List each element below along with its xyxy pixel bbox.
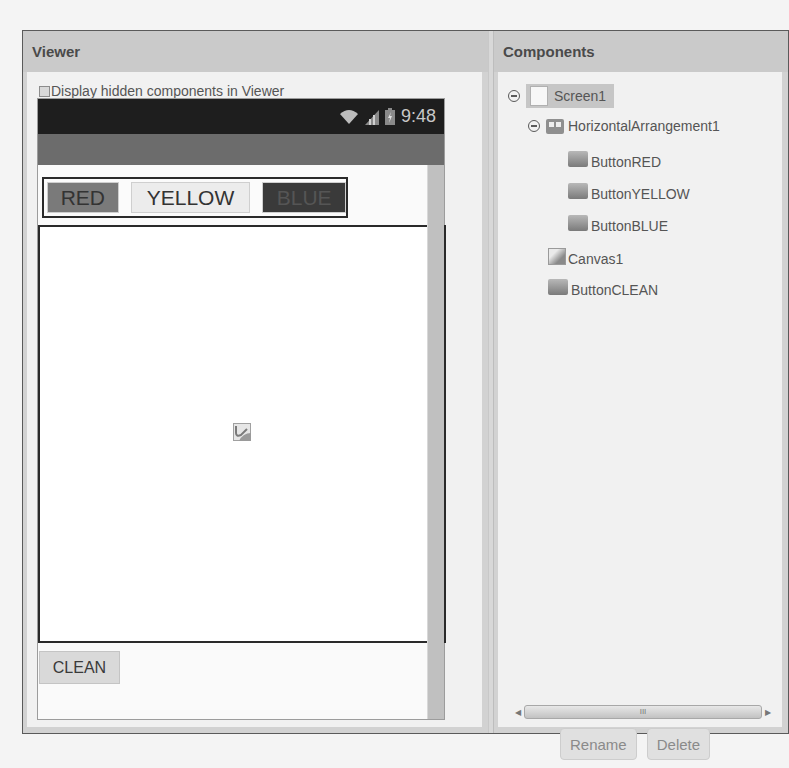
scroll-left-icon[interactable]: ◀	[512, 708, 524, 717]
button-clean[interactable]: CLEAN	[39, 651, 120, 684]
signal-icon	[365, 109, 379, 125]
components-body: Screen1 HorizontalArrangement1 ButtonRED…	[498, 72, 782, 727]
components-panel: Components Screen1 HorizontalArrangement…	[493, 31, 788, 733]
delete-button[interactable]: Delete	[647, 728, 710, 760]
canvas[interactable]	[38, 225, 446, 643]
scroll-thumb[interactable]: III	[524, 705, 762, 719]
phone-scrollbar[interactable]	[427, 165, 444, 719]
tree-horizontal-scrollbar[interactable]: ◀ III ▶	[512, 704, 774, 720]
horizontal-arrangement[interactable]: RED YELLOW BLUE	[42, 177, 348, 218]
viewer-panel: Viewer Display hidden components in View…	[23, 31, 489, 733]
tree-node-label: ButtonRED	[591, 154, 661, 170]
tree-node-canvas1[interactable]: Canvas1	[548, 246, 623, 267]
tree-node-buttonyellow[interactable]: ButtonYELLOW	[568, 180, 690, 202]
button-blue[interactable]: BLUE	[262, 182, 346, 213]
tree-node-label: ButtonBLUE	[591, 218, 668, 234]
phone-status-bar: 9:48	[38, 99, 444, 134]
components-title: Components	[494, 31, 788, 72]
button-yellow[interactable]: YELLOW	[131, 182, 251, 213]
tree-node-buttonblue[interactable]: ButtonBLUE	[568, 212, 668, 234]
button-icon	[568, 151, 588, 167]
tree-node-buttonred[interactable]: ButtonRED	[568, 148, 661, 170]
rename-button[interactable]: Rename	[560, 728, 637, 760]
wifi-icon	[339, 109, 359, 125]
button-icon	[568, 183, 588, 199]
button-red[interactable]: RED	[47, 182, 119, 213]
phone-title-bar	[38, 134, 444, 165]
component-actions: Rename Delete	[560, 728, 710, 760]
horizontal-arrangement-icon	[546, 119, 564, 134]
battery-charging-icon	[385, 108, 395, 125]
viewer-body: Display hidden components in Viewer	[27, 72, 482, 727]
tree-node-horizontalarrangement1[interactable]: HorizontalArrangement1	[528, 118, 720, 134]
tree-node-label: Canvas1	[568, 251, 623, 267]
canvas-icon	[233, 423, 251, 441]
display-hidden-toggle[interactable]: Display hidden components in Viewer	[39, 83, 284, 99]
tree-node-label: Screen1	[554, 88, 606, 104]
screen-icon	[530, 86, 548, 106]
tree-node-buttonclean[interactable]: ButtonCLEAN	[548, 276, 658, 298]
phone-preview: 9:48 RED YELLOW BLUE CLEAN	[37, 98, 445, 720]
tree-node-screen1[interactable]: Screen1	[508, 84, 614, 108]
collapse-icon[interactable]	[508, 90, 520, 102]
viewer-title: Viewer	[23, 31, 488, 72]
scroll-right-icon[interactable]: ▶	[762, 708, 774, 717]
display-hidden-label: Display hidden components in Viewer	[51, 83, 284, 99]
tree-node-label: HorizontalArrangement1	[568, 118, 720, 134]
display-hidden-checkbox[interactable]	[39, 86, 50, 97]
button-icon	[568, 215, 588, 231]
canvas-icon	[548, 248, 566, 265]
tree-node-selected[interactable]: Screen1	[526, 84, 614, 108]
tree-node-label: ButtonCLEAN	[571, 282, 658, 298]
designer-frame: Viewer Display hidden components in View…	[22, 30, 789, 734]
scroll-grip: III	[640, 707, 647, 716]
phone-clock: 9:48	[401, 106, 436, 127]
tree-node-label: ButtonYELLOW	[591, 186, 690, 202]
collapse-icon[interactable]	[528, 120, 540, 132]
button-icon	[548, 279, 568, 295]
